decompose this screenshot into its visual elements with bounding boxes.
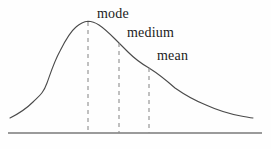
mean-label: mean	[157, 49, 188, 63]
mode-label: mode	[97, 7, 129, 21]
skewed-distribution-figure: mode medium mean	[0, 0, 271, 149]
distribution-chart-canvas	[0, 0, 271, 149]
medium-label: medium	[127, 26, 174, 40]
